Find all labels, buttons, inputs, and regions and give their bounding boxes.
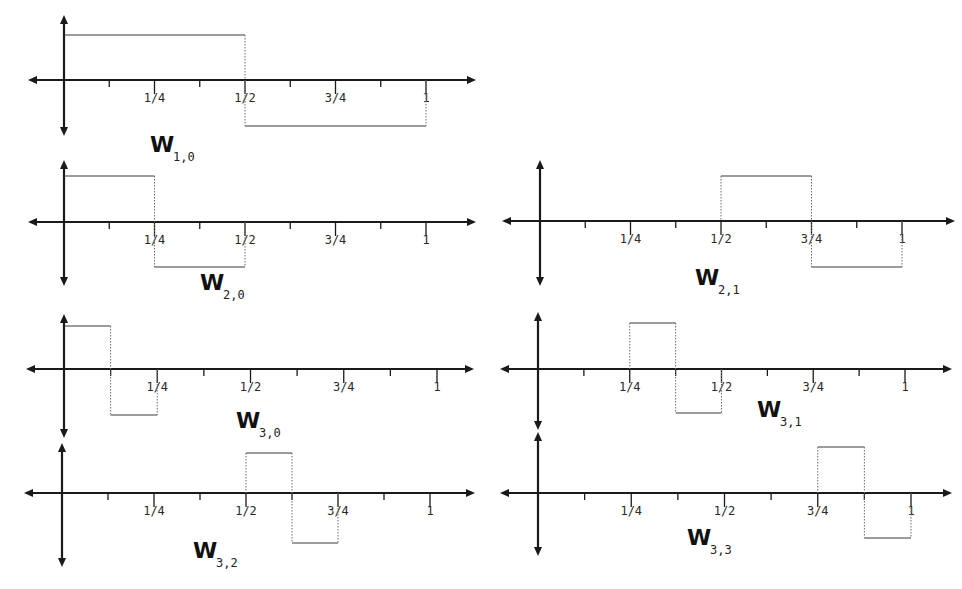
wavelet-subscript: 3,3 (710, 543, 732, 557)
wavelet-subscript: 2,1 (718, 283, 740, 297)
tick-label: 1/2 (710, 232, 732, 246)
arrow-up-icon (534, 432, 542, 441)
tick-label: 1/2 (235, 504, 257, 518)
tick-label: 1/2 (240, 380, 262, 394)
arrow-left-icon (28, 76, 37, 84)
arrow-up-icon (536, 160, 544, 169)
tick-label: 3/4 (325, 91, 347, 105)
wavelet-subscript: 1,0 (173, 150, 195, 164)
arrow-right-icon (465, 365, 474, 373)
arrow-right-icon (466, 489, 475, 497)
arrow-right-icon (943, 365, 952, 373)
wavelet-label: W (757, 397, 781, 422)
panel-w-3-1: 1/41/23/41W3,1 (500, 312, 952, 430)
arrow-down-icon (534, 421, 542, 430)
wavelet-label: W (236, 408, 260, 433)
arrow-right-icon (943, 489, 952, 497)
arrow-right-icon (467, 76, 476, 84)
tick-label: 3/4 (807, 504, 829, 518)
arrow-down-icon (534, 547, 542, 556)
wavelet-subscript: 3,1 (780, 415, 802, 429)
arrow-up-icon (60, 15, 68, 24)
panel-w-1-0: 1/41/23/41W1,0 (28, 15, 476, 164)
wavelet-label: W (193, 538, 217, 563)
arrow-left-icon (500, 489, 509, 497)
tick-label: 3/4 (325, 233, 347, 247)
panel-w-2-1: 1/41/23/41W2,1 (502, 160, 955, 297)
panel-w-3-0: 1/41/23/41W3,0 (26, 314, 474, 440)
wavelet-label: W (200, 270, 224, 295)
wavelet-subscript: 2,0 (223, 288, 245, 302)
wavelet-panels: 1/41/23/41W1,01/41/23/41W2,01/41/23/41W2… (24, 15, 955, 570)
panel-w-3-3: 1/41/23/41W3,3 (500, 432, 952, 557)
wavelet-label: W (695, 265, 719, 290)
arrow-left-icon (26, 365, 35, 373)
arrow-down-icon (536, 277, 544, 286)
arrow-left-icon (28, 218, 37, 226)
tick-label: 1/2 (714, 504, 736, 518)
tick-label: 1 (422, 233, 429, 247)
arrow-left-icon (502, 217, 511, 225)
wavelet-subscript: 3,0 (259, 426, 281, 440)
panel-w-2-0: 1/41/23/41W2,0 (28, 160, 476, 302)
tick-label: 3/4 (333, 380, 355, 394)
tick-label: 1/4 (619, 380, 641, 394)
arrow-up-icon (534, 312, 542, 321)
wavelet-label: W (150, 132, 174, 157)
arrow-up-icon (60, 314, 68, 323)
arrow-left-icon (500, 365, 509, 373)
tick-label: 1/4 (144, 91, 166, 105)
arrow-down-icon (60, 127, 68, 136)
tick-label: 1 (901, 380, 908, 394)
tick-label: 1 (426, 504, 433, 518)
arrow-left-icon (24, 489, 33, 497)
tick-label: 1 (433, 380, 440, 394)
arrow-down-icon (60, 277, 68, 286)
tick-label: 1/4 (620, 232, 642, 246)
wavelet-label: W (687, 525, 711, 550)
arrow-down-icon (58, 558, 66, 567)
arrow-up-icon (60, 160, 68, 169)
arrow-down-icon (60, 429, 68, 438)
arrow-up-icon (58, 443, 66, 452)
tick-label: 3/4 (802, 380, 824, 394)
arrow-right-icon (946, 217, 955, 225)
tick-label: 1/4 (143, 504, 165, 518)
wavelet-subscript: 3,2 (216, 556, 238, 570)
arrow-right-icon (467, 218, 476, 226)
tick-label: 1/4 (620, 504, 642, 518)
panel-w-3-2: 1/41/23/41W3,2 (24, 443, 475, 570)
haar-wavelet-figure: 1/41/23/41W1,01/41/23/41W2,01/41/23/41W2… (0, 0, 962, 589)
